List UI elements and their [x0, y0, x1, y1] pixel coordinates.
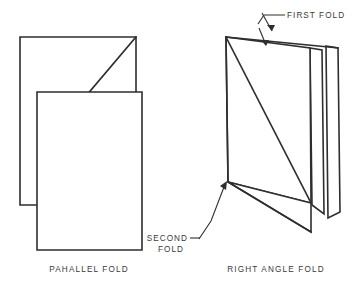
right-angle-rear-thin-panel-b — [326, 46, 340, 218]
parallel-fold-caption: PAHALLEL FOLD — [49, 265, 129, 274]
fold-diagram-canvas: PAHALLEL FOLD RIGHT ANGLE FOLD — [0, 0, 363, 294]
first-fold-label: FIRST FOLD — [287, 11, 345, 20]
fold-diagram-figure: PAHALLEL FOLD RIGHT ANGLE FOLD — [0, 0, 363, 294]
right-angle-fold-diagram: RIGHT ANGLE FOLD — [226, 37, 340, 274]
second-fold-label-line1: SECOND — [147, 234, 188, 243]
parallel-fold-diagram: PAHALLEL FOLD — [20, 37, 142, 274]
right-angle-rear-thin-panel-a — [310, 48, 324, 214]
right-angle-fold-caption: RIGHT ANGLE FOLD — [227, 265, 324, 274]
second-fold-label-line2: FOLD — [158, 245, 184, 254]
parallel-front-panel — [37, 92, 142, 250]
second-fold-leader-line — [199, 187, 224, 239]
first-fold-leader-line — [258, 15, 285, 24]
second-fold-callout: SECOND FOLD — [147, 181, 227, 254]
